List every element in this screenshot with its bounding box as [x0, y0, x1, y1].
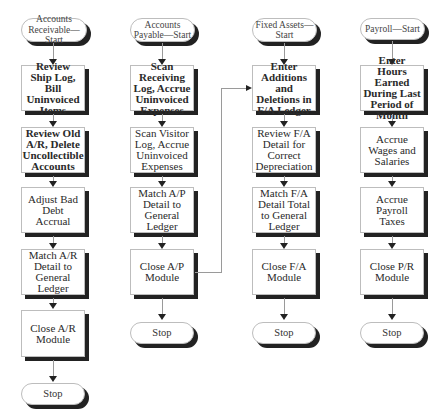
- arrow-down-icon: [280, 314, 288, 320]
- pr-start-terminal: Payroll—Start: [360, 18, 425, 40]
- cross-connector: [221, 88, 246, 89]
- ar-step-review-old-ar: Review Old A/R, Delete Uncollectible Acc…: [21, 127, 85, 173]
- ar-stop-terminal: Stop: [21, 383, 85, 405]
- arrow-down-icon: [49, 303, 57, 309]
- arrow-down-icon: [158, 314, 166, 320]
- arrow-down-icon: [388, 314, 396, 320]
- ap-step-scan-receiving-log: Scan Receiving Log, Accrue Uninvoiced Ex…: [130, 65, 194, 111]
- connector: [53, 360, 54, 377]
- connector: [284, 43, 285, 59]
- connector: [392, 298, 393, 315]
- ap-stop-terminal: Stop: [130, 322, 194, 344]
- connector: [162, 43, 163, 59]
- arrow-down-icon: [49, 376, 57, 382]
- fa-step-close-fa: Close F/A Module: [252, 249, 316, 295]
- fa-step-match-fa: Match F/A Detail Total to General Ledger: [252, 187, 316, 233]
- fa-start-terminal: Fixed Assets—Start: [252, 18, 317, 42]
- pr-step-close-pr: Close P/R Module: [360, 249, 424, 295]
- ar-step-match-ar: Match A/R Detail to General Ledger: [21, 249, 85, 295]
- fa-stop-terminal: Stop: [252, 322, 316, 344]
- connector: [53, 43, 54, 59]
- ap-step-match-ap: Match A/P Detail to General Ledger: [130, 187, 194, 233]
- ap-step-close-ap: Close A/P Module: [130, 249, 194, 295]
- connector: [284, 298, 285, 315]
- fa-step-review-fa: Review F/A Detail for Correct Depreciati…: [252, 127, 316, 173]
- ap-step-scan-visitor-log: Scan Visitor Log, Accrue Uninvoiced Expe…: [130, 127, 194, 173]
- connector: [162, 298, 163, 315]
- ar-step-adjust-bad-debt: Adjust Bad Debt Accrual: [21, 187, 85, 233]
- cross-connector: [221, 88, 222, 273]
- pr-step-accrue-wages: Accrue Wages and Salaries: [360, 127, 424, 173]
- fa-step-enter-additions: Enter Additions and Deletions in F/A Led…: [252, 65, 316, 111]
- ar-step-close-ar: Close A/R Module: [21, 310, 85, 357]
- ar-step-review-ship-log: Review Ship Log, Bill Uninvoiced Items: [21, 65, 85, 111]
- pr-step-accrue-taxes: Accrue Payroll Taxes: [360, 187, 424, 233]
- ar-start-terminal: Accounts Receivable—Start: [21, 18, 87, 42]
- cross-connector: [195, 272, 222, 273]
- pr-stop-terminal: Stop: [360, 322, 424, 344]
- pr-step-enter-hours: Enter Hours Earned During Last Period of…: [360, 65, 424, 111]
- ap-start-terminal: Accounts Payable—Start: [130, 18, 195, 42]
